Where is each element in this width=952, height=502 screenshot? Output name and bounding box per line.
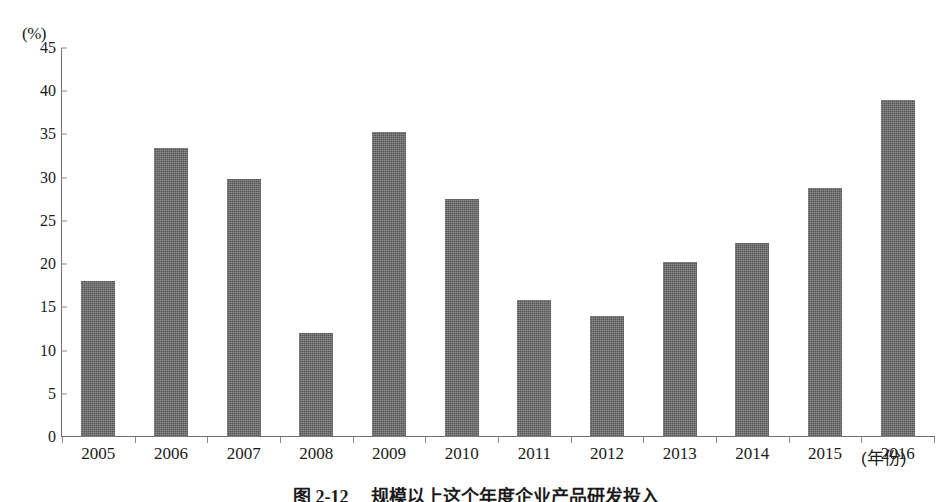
bar-2009	[372, 132, 406, 437]
x-axis-tick-mark	[934, 437, 935, 443]
x-axis-tick-label: 2014	[735, 444, 769, 464]
bar-2006	[154, 148, 188, 437]
bar-2015	[808, 188, 842, 437]
x-axis-tick-mark	[789, 437, 790, 443]
bar-2011	[517, 300, 551, 437]
x-axis-tick-mark	[62, 437, 63, 443]
y-axis-tick-label: 40	[16, 82, 62, 100]
x-axis-tick-mark	[135, 437, 136, 443]
x-axis-tick-mark	[498, 437, 499, 443]
x-axis-tick-label: 2012	[590, 444, 624, 464]
x-axis-tick-label: 2007	[227, 444, 261, 464]
y-axis-tick-label: 5	[16, 385, 62, 403]
x-axis-tick-mark	[280, 437, 281, 443]
x-axis-tick-label: 2011	[518, 444, 551, 464]
x-axis-tick-label: 2009	[372, 444, 406, 464]
bar-2013	[663, 262, 697, 437]
x-axis-tick-mark	[716, 437, 717, 443]
x-axis-tick-mark	[643, 437, 644, 443]
bar-2007	[227, 179, 261, 437]
x-axis-tick-mark	[425, 437, 426, 443]
y-axis-tick-label: 25	[16, 212, 62, 230]
x-axis-tick-label: 2010	[445, 444, 479, 464]
x-axis-tick-mark	[571, 437, 572, 443]
y-axis-tick-label: 15	[16, 298, 62, 316]
x-axis-tick-mark	[353, 437, 354, 443]
x-axis-tick-label: 2005	[81, 444, 115, 464]
bar-2008	[299, 333, 333, 437]
y-axis-tick-label: 30	[16, 169, 62, 187]
bar-2010	[445, 199, 479, 437]
y-axis-tick-label: 10	[16, 342, 62, 360]
bar-2012	[590, 316, 624, 437]
x-axis-tick-label: 2015	[808, 444, 842, 464]
x-axis-tick-label: 2013	[663, 444, 697, 464]
y-axis-tick-label: 45	[16, 39, 62, 57]
x-axis-unit-label: (年份)	[861, 444, 906, 469]
plot-area	[62, 48, 934, 437]
x-axis-tick-label: 2006	[154, 444, 188, 464]
x-axis-tick-label: 2008	[299, 444, 333, 464]
x-axis-tick-mark	[861, 437, 862, 443]
bar-2014	[735, 243, 769, 437]
x-axis-tick-mark	[207, 437, 208, 443]
bar-2005	[81, 281, 115, 437]
y-axis-tick-label: 20	[16, 255, 62, 273]
bar-2016	[881, 100, 915, 437]
figure-caption: 图 2-12 规模以上这个年度企业产品研发投入	[0, 482, 952, 502]
y-axis-tick-labels: 051015202530354045	[8, 0, 62, 502]
bar-chart-figure: (%) 051015202530354045 20052006200720082…	[0, 0, 952, 502]
y-axis-tick-label: 35	[16, 125, 62, 143]
y-axis-tick-label: 0	[16, 428, 62, 446]
